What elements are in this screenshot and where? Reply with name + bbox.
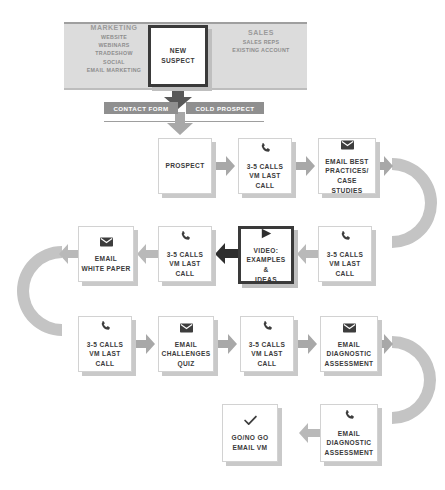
arrow-r3-exit <box>58 244 78 264</box>
node-email-diagnostic-r5-line2: DIAGNOSTIC <box>325 438 374 448</box>
node-calls-r2-line1: 3-5 CALLS <box>245 162 286 172</box>
node-new-suspect-line2: SUSPECT <box>159 56 197 66</box>
phone-icon <box>343 409 356 425</box>
phone-icon <box>259 142 272 158</box>
tag-cold-prospect-label: COLD PROSPECT <box>195 105 254 112</box>
node-email-white-paper-line2: WHITE PAPER <box>79 264 132 274</box>
node-email-best-practices-line1: EMAIL BEST <box>323 157 370 167</box>
envelope-icon <box>341 137 354 153</box>
channel-heading-marketing: MARKETING <box>70 24 158 31</box>
arrow-r3-a <box>136 244 158 264</box>
node-email-diagnostic-r5-line1: EMAIL <box>336 429 362 439</box>
channel-group-sales: SALES SALES REPS EXISTING ACCOUNT <box>218 29 304 54</box>
node-prospect-label: PROSPECT <box>163 161 206 171</box>
node-prospect[interactable]: PROSPECT <box>158 138 212 194</box>
channel-item-website: WEBSITE <box>70 33 158 41</box>
node-email-diagnostic-r4[interactable]: EMAIL DIAGNOSTIC ASSESSMENT <box>320 316 378 372</box>
node-calls-r4-b-line2: VM LAST CALL <box>241 349 293 368</box>
envelope-icon <box>100 234 113 250</box>
phone-icon <box>179 230 192 246</box>
arrow-r3-b <box>214 243 238 265</box>
envelope-icon <box>343 320 356 336</box>
node-go-no-go-line1: GO/NO GO <box>230 433 271 443</box>
node-go-no-go[interactable]: GO/NO GO EMAIL VM <box>222 404 278 462</box>
node-new-suspect-line1: NEW <box>168 46 188 56</box>
node-email-best-practices-line3: CASE STUDIES <box>319 176 375 195</box>
node-email-diagnostic-r4-line1: EMAIL <box>336 340 362 350</box>
tag-cold-prospect[interactable]: COLD PROSPECT <box>186 102 264 114</box>
arrow-r4-b <box>216 334 238 354</box>
envelope-icon <box>180 320 193 336</box>
node-calls-r3-mid-line2: VM LAST CALL <box>159 259 211 278</box>
node-email-best-practices[interactable]: EMAIL BEST PRACTICES/ CASE STUDIES <box>318 138 376 194</box>
tag-contact-form[interactable]: CONTACT FORM <box>104 102 178 114</box>
channel-heading-sales: SALES <box>218 29 304 36</box>
node-video-examples[interactable]: VIDEO: EXAMPLES & IDEAS <box>238 226 294 284</box>
node-calls-r3-right[interactable]: 3-5 CALLS VM LAST CALL <box>318 226 372 282</box>
phone-icon <box>339 230 352 246</box>
node-calls-r3-right-line1: 3-5 CALLS <box>325 250 366 260</box>
node-new-suspect[interactable]: NEW SUSPECT <box>148 25 208 87</box>
channel-item-sales-reps: SALES REPS <box>218 38 304 46</box>
node-email-best-practices-line2: PRACTICES/ <box>323 166 370 176</box>
tag-contact-form-label: CONTACT FORM <box>113 105 168 112</box>
arrow-pills-down <box>166 112 194 136</box>
channel-item-webinars: WEBINARS <box>70 41 158 49</box>
arrow-r2-b <box>294 156 316 176</box>
node-calls-r3-mid[interactable]: 3-5 CALLS VM LAST CALL <box>158 226 212 282</box>
play-icon <box>260 226 273 242</box>
node-video-examples-line1: VIDEO: <box>252 246 281 256</box>
arrow-r2-a <box>214 156 236 176</box>
node-calls-r4-a-line1: 3-5 CALLS <box>85 340 126 350</box>
arrow-r4-a <box>134 334 156 354</box>
node-calls-r3-right-line2: VM LAST CALL <box>319 259 371 278</box>
channel-group-marketing: MARKETING WEBSITE WEBINARS TRADESHOW SOC… <box>70 24 158 74</box>
node-calls-r4-b[interactable]: 3-5 CALLS VM LAST CALL <box>240 316 294 372</box>
node-calls-r4-b-line1: 3-5 CALLS <box>247 340 288 350</box>
phone-icon <box>99 320 112 336</box>
node-video-examples-line3: IDEAS <box>253 275 279 285</box>
check-icon <box>244 413 257 429</box>
arrow-r5-a <box>298 423 320 443</box>
node-calls-r3-mid-line1: 3-5 CALLS <box>165 250 206 260</box>
node-email-diagnostic-r4-line3: ASSESSMENT <box>323 359 376 369</box>
node-email-challenges-quiz-line1: EMAIL <box>173 340 199 350</box>
node-email-diagnostic-r4-line2: DIAGNOSTIC <box>325 349 374 359</box>
node-email-challenges-quiz-line2: CHALLENGES <box>160 349 213 359</box>
node-email-challenges-quiz-line3: QUIZ <box>175 359 196 369</box>
flowchart-canvas: MARKETING WEBSITE WEBINARS TRADESHOW SOC… <box>0 0 445 490</box>
node-go-no-go-line2: EMAIL VM <box>231 443 270 453</box>
node-email-diagnostic-r5[interactable]: EMAIL DIAGNOSTIC ASSESSMENT <box>320 404 378 462</box>
arrow-r4-c <box>296 334 318 354</box>
arrow-r3-c <box>296 244 318 264</box>
node-email-white-paper-line1: EMAIL <box>93 254 119 264</box>
arrow-r2-exit <box>374 156 394 176</box>
node-email-diagnostic-r5-line3: ASSESSMENT <box>323 448 376 458</box>
phone-icon <box>261 320 274 336</box>
node-calls-r2[interactable]: 3-5 CALLS VM LAST CALL <box>238 138 292 194</box>
node-email-white-paper[interactable]: EMAIL WHITE PAPER <box>78 226 134 282</box>
node-calls-r4-a[interactable]: 3-5 CALLS VM LAST CALL <box>78 316 132 372</box>
node-calls-r2-line2: VM LAST CALL <box>239 171 291 190</box>
channel-item-tradeshow: TRADESHOW <box>70 49 158 57</box>
node-email-challenges-quiz[interactable]: EMAIL CHALLENGES QUIZ <box>158 316 214 372</box>
channel-item-email-marketing: EMAIL MARKETING <box>70 66 158 74</box>
node-video-examples-line2: EXAMPLES & <box>241 255 291 274</box>
node-calls-r4-a-line2: VM LAST CALL <box>79 349 131 368</box>
channel-item-existing-account: EXISTING ACCOUNT <box>218 46 304 54</box>
channel-item-social: SOCIAL <box>70 58 158 66</box>
